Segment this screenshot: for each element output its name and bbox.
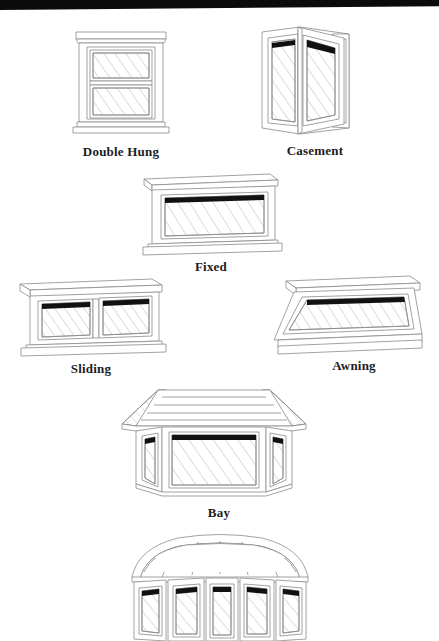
top-scan-artifact-band xyxy=(0,0,439,10)
figure-fixed xyxy=(132,168,284,258)
figure-awning xyxy=(264,272,426,360)
caption-bay: Bay xyxy=(169,505,269,521)
figure-casement xyxy=(254,24,374,142)
figure-bow xyxy=(122,532,318,641)
caption-casement: Casement xyxy=(240,143,390,159)
caption-fixed: Fixed xyxy=(156,259,266,275)
caption-awning: Awning xyxy=(304,358,404,374)
diagram-page: Double Hung xyxy=(0,0,439,641)
figure-double-hung xyxy=(62,26,180,141)
caption-double-hung: Double Hung xyxy=(44,144,198,160)
caption-sliding: Sliding xyxy=(36,361,146,377)
figure-sliding xyxy=(12,276,167,358)
figure-bay xyxy=(114,386,314,504)
